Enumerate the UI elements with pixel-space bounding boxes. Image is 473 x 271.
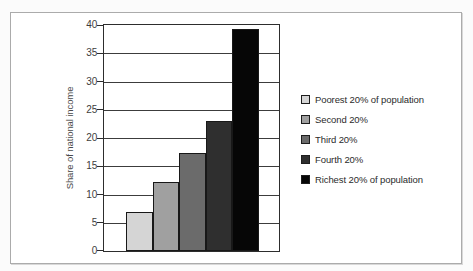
plot-area [103,24,280,252]
y-tick-10 [97,194,103,195]
legend-label: Third 20% [315,134,357,145]
legend-item-4: Richest 20% of population [301,169,424,189]
y-tick-label-30: 30 [55,76,97,88]
y-tick-15 [97,166,103,167]
legend: Poorest 20% of populationSecond 20%Third… [301,89,424,189]
bar-1 [153,182,180,252]
y-tick-30 [97,81,103,82]
legend-item-1: Second 20% [301,109,424,129]
chart-page: Share of national income 051015202530354… [0,0,473,271]
legend-swatch-icon [301,135,310,144]
y-tick-label-15: 15 [55,160,97,172]
y-tick-5 [97,222,103,223]
legend-label: Richest 20% of population [315,174,423,185]
bar-2 [179,153,206,251]
y-tick-40 [97,25,103,26]
legend-item-3: Fourth 20% [301,149,424,169]
bar-4 [232,29,259,251]
chart-frame: Share of national income 051015202530354… [10,12,462,264]
legend-label: Second 20% [315,114,368,125]
y-tick-20 [97,138,103,139]
y-tick-35 [97,53,103,54]
y-tick-0 [97,250,103,251]
y-tick-label-25: 25 [55,104,97,116]
y-tick-label-5: 5 [55,217,97,229]
legend-label: Poorest 20% of population [315,94,424,105]
legend-swatch-icon [301,95,310,104]
y-tick-label-10: 10 [55,189,97,201]
y-tick-25 [97,109,103,110]
y-axis-labels: 0510152025303540 [55,24,97,252]
y-tick-label-20: 20 [55,132,97,144]
legend-item-0: Poorest 20% of population [301,89,424,109]
legend-swatch-icon [301,175,310,184]
y-tick-label-40: 40 [55,19,97,31]
bar-0 [126,212,153,252]
bar-3 [206,121,233,251]
y-tick-label-35: 35 [55,47,97,59]
legend-swatch-icon [301,115,310,124]
y-tick-label-0: 0 [55,245,97,257]
legend-label: Fourth 20% [315,154,363,165]
legend-item-2: Third 20% [301,129,424,149]
legend-swatch-icon [301,155,310,164]
